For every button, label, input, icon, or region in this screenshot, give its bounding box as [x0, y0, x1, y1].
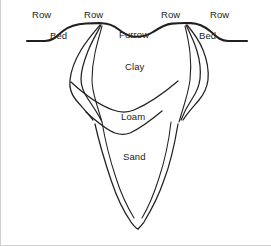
label-bed-left: Bed — [50, 30, 67, 41]
diagram-paths-group — [27, 23, 247, 229]
wetting-front-right-inner — [179, 26, 191, 122]
label-layer-sand: Sand — [123, 151, 146, 162]
wetting-front-deep-left-inner — [102, 122, 134, 218]
label-furrow: Furrow — [119, 29, 149, 40]
label-row-left-inner: Row — [84, 9, 103, 20]
label-row-left-outer: Row — [32, 9, 51, 20]
wetting-front-deep-right-inner — [142, 122, 171, 218]
wetting-front-left-outer — [70, 25, 100, 120]
label-layer-loam: Loam — [121, 111, 145, 122]
label-row-right-outer: Row — [210, 9, 229, 20]
label-row-right-inner: Row — [161, 9, 180, 20]
label-layer-clay: Clay — [125, 61, 144, 72]
label-bed-right: Bed — [199, 30, 216, 41]
wetting-front-deep-right — [138, 124, 178, 229]
soil-cross-section-diagram: RowRowRowRowBedFurrowBedClayLoamSand — [0, 0, 271, 246]
